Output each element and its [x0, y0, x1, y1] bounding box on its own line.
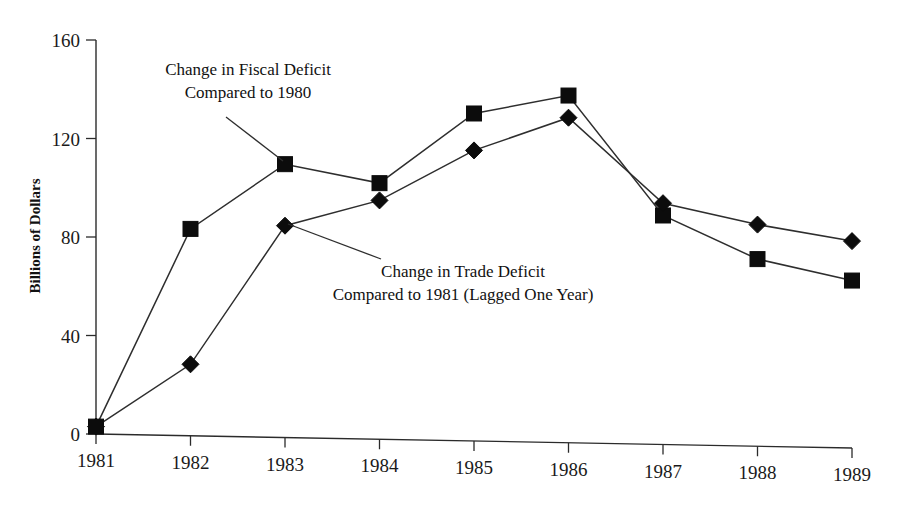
fiscal-deficit-annotation-line2: Compared to 1980 — [185, 83, 312, 102]
x-tick-label: 1983 — [266, 454, 304, 475]
y-axis-ticks: 04080120160 — [52, 30, 97, 445]
y-tick-label: 120 — [52, 129, 81, 150]
data-point-marker — [466, 142, 483, 159]
trade-deficit-leader-line — [288, 224, 381, 259]
data-point-marker — [845, 273, 860, 288]
y-tick-label: 40 — [61, 326, 80, 347]
fiscal-deficit-annotation-line1: Change in Fiscal Deficit — [165, 60, 331, 79]
line-chart: 04080120160 1981198219831984198519861987… — [0, 0, 903, 514]
x-tick-label: 1984 — [361, 455, 400, 476]
y-axis-title: Billions of Dollars — [27, 178, 43, 293]
data-point-marker — [371, 192, 388, 209]
y-tick-label: 0 — [71, 424, 81, 445]
trade-deficit-annotation-line2: Compared to 1981 (Lagged One Year) — [333, 285, 594, 304]
x-tick-label: 1988 — [739, 462, 777, 483]
x-axis-ticks: 198119821983198419851986198719881989 — [77, 434, 871, 485]
x-tick-label: 1982 — [172, 452, 210, 473]
x-tick-label: 1985 — [455, 457, 493, 478]
data-point-marker — [467, 106, 482, 121]
data-point-marker — [749, 216, 766, 233]
fiscal-deficit-leader-line — [226, 117, 283, 161]
y-tick-label: 160 — [52, 30, 81, 51]
x-tick-label: 1989 — [833, 464, 871, 485]
x-tick-label: 1986 — [550, 459, 588, 480]
trade-deficit-annotation-line1: Change in Trade Deficit — [381, 262, 545, 281]
y-tick-label: 80 — [61, 227, 80, 248]
data-point-marker — [183, 221, 198, 236]
data-point-marker — [182, 356, 199, 373]
x-tick-label: 1987 — [644, 461, 682, 482]
data-point-marker — [372, 176, 387, 191]
data-point-marker — [750, 252, 765, 267]
data-point-marker — [844, 233, 861, 250]
data-point-marker — [561, 88, 576, 103]
chart-container: 04080120160 1981198219831984198519861987… — [0, 0, 903, 514]
x-tick-label: 1981 — [77, 450, 115, 471]
